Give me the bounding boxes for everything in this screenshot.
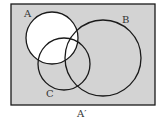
diagram-caption: A′ — [76, 108, 87, 119]
set-a-label: A — [23, 8, 32, 19]
venn-diagram: A B C A′ — [0, 0, 164, 121]
set-b-label: B — [122, 14, 129, 25]
set-c-label: C — [46, 88, 54, 99]
